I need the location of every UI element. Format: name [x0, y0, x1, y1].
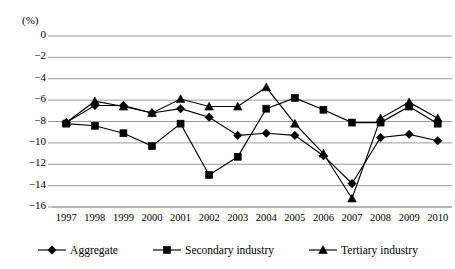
triangle-marker: [91, 97, 100, 105]
series-aggregate: [62, 101, 442, 187]
series-secondary-industry: [63, 94, 441, 178]
triangle-marker: [348, 194, 357, 202]
triangle-marker: [262, 83, 271, 91]
square-marker: [120, 130, 127, 137]
square-marker: [163, 247, 170, 254]
diamond-marker: [262, 129, 270, 137]
triangle-marker: [176, 95, 185, 103]
gridlines: [48, 36, 452, 207]
square-marker: [263, 105, 270, 112]
legend-item-tertiary-industry[interactable]: Tertiary industry: [308, 243, 418, 257]
square-marker: [320, 106, 327, 113]
triangle-marker: [376, 114, 385, 122]
legend-item-secondary-industry[interactable]: Secondary industry: [152, 243, 274, 257]
legend-item-aggregate[interactable]: Aggregate: [37, 243, 118, 257]
line-chart: (%) 0−2−4−6−8−10−12−14−16 19971998199920…: [0, 0, 455, 269]
square-marker: [291, 94, 298, 101]
triangle-marker: [433, 114, 442, 122]
chart-legend: AggregateSecondary industryTertiary indu…: [0, 243, 455, 257]
square-marker: [177, 120, 184, 127]
diamond-marker: [176, 104, 184, 112]
legend-label: Aggregate: [69, 244, 118, 256]
diamond-marker: [48, 246, 56, 254]
square-marker: [349, 119, 356, 126]
legend-label: Tertiary industry: [340, 244, 418, 256]
diamond-marker: [376, 133, 384, 141]
triangle-marker: [405, 98, 414, 106]
legend-label: Secondary industry: [184, 244, 274, 256]
diamond-marker: [291, 131, 299, 139]
square-marker: [234, 153, 241, 160]
diamond-marker: [234, 131, 242, 139]
diamond-marker: [205, 113, 213, 121]
plot-area: [0, 0, 455, 269]
diamond-legend-icon: [37, 243, 67, 257]
square-marker: [149, 143, 156, 150]
triangle-legend-icon: [308, 243, 338, 257]
square-legend-icon: [152, 243, 182, 257]
square-marker: [91, 122, 98, 129]
diamond-marker: [434, 137, 442, 145]
diamond-marker: [405, 130, 413, 138]
square-marker: [206, 171, 213, 178]
